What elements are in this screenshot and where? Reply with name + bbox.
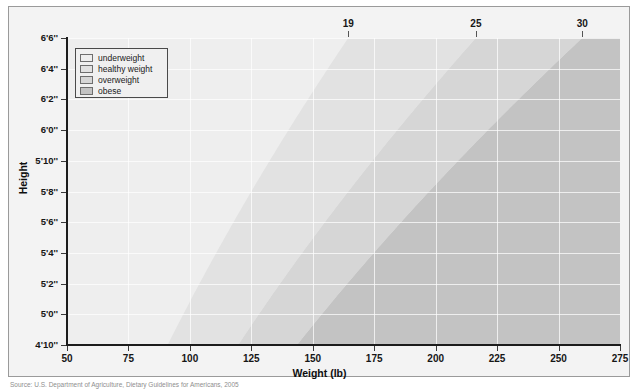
y-tick-mark	[61, 345, 66, 346]
bmi-tick-mark	[582, 31, 583, 37]
x-tick-mark	[559, 346, 560, 351]
x-tick-label: 225	[477, 353, 517, 364]
x-tick-label: 200	[416, 353, 456, 364]
y-tick-label: 6'2''	[41, 93, 58, 104]
x-tick-label: 75	[108, 353, 148, 364]
bmi-chart-figure: Body Mass Index (BMI) 4'10''5'0''5'2''5'…	[0, 0, 639, 392]
legend-item-label: healthy weight	[98, 64, 152, 74]
y-tick-label: 5'8''	[41, 186, 58, 197]
bmi-tick-mark	[476, 31, 477, 37]
y-axis-line	[66, 37, 68, 346]
x-tick-mark	[313, 346, 314, 351]
x-axis-title: Weight (lb)	[0, 367, 639, 379]
x-tick-label: 125	[231, 353, 271, 364]
x-tick-mark	[374, 346, 375, 351]
legend-item-obese: obese	[80, 85, 163, 96]
y-tick-label: 6'6''	[41, 32, 58, 43]
legend-item-label: obese	[98, 86, 121, 96]
x-tick-label: 150	[293, 353, 333, 364]
y-tick-label: 5'0''	[41, 308, 58, 319]
bmi-tick-mark	[348, 31, 349, 37]
legend-item-overweight: overweight	[80, 74, 163, 85]
bmi-label: 30	[562, 18, 602, 29]
x-tick-label: 100	[170, 353, 210, 364]
x-tick-label: 175	[354, 353, 394, 364]
legend-item-underweight: underweight	[80, 52, 163, 63]
y-tick-mark	[61, 314, 66, 315]
y-tick-label: 5'4''	[41, 247, 58, 258]
x-tick-mark	[497, 346, 498, 351]
x-tick-mark	[67, 346, 68, 351]
legend-swatch-icon	[80, 76, 93, 84]
legend-item-healthy-weight: healthy weight	[80, 63, 163, 74]
y-tick-label: 5'10''	[35, 155, 58, 166]
x-tick-mark	[620, 346, 621, 351]
y-tick-label: 4'10''	[35, 339, 58, 350]
y-tick-mark	[61, 161, 66, 162]
y-tick-mark	[61, 222, 66, 223]
x-tick-label: 275	[600, 353, 639, 364]
legend-box: underweighthealthy weightoverweightobese	[75, 48, 168, 98]
y-tick-mark	[61, 38, 66, 39]
x-tick-mark	[251, 346, 252, 351]
y-tick-label: 6'0''	[41, 124, 58, 135]
x-tick-mark	[128, 346, 129, 351]
y-tick-mark	[61, 284, 66, 285]
x-tick-mark	[436, 346, 437, 351]
x-tick-label: 50	[47, 353, 87, 364]
y-tick-mark	[61, 253, 66, 254]
legend-swatch-icon	[80, 65, 93, 73]
y-tick-label: 5'2''	[41, 278, 58, 289]
bmi-label: 19	[328, 18, 368, 29]
legend-item-label: overweight	[98, 75, 139, 85]
y-tick-mark	[61, 192, 66, 193]
legend-swatch-icon	[80, 87, 93, 95]
y-tick-label: 5'6''	[41, 216, 58, 227]
legend-item-label: underweight	[98, 53, 144, 63]
y-tick-mark	[61, 99, 66, 100]
y-tick-mark	[61, 130, 66, 131]
y-tick-mark	[61, 69, 66, 70]
source-note: Source: U.S. Department of Agriculture, …	[10, 381, 239, 388]
x-tick-mark	[190, 346, 191, 351]
x-axis-line	[66, 344, 621, 346]
y-tick-label: 6'4''	[41, 63, 58, 74]
y-axis-title: Height	[17, 148, 29, 208]
x-tick-label: 250	[539, 353, 579, 364]
legend-swatch-icon	[80, 54, 93, 62]
bmi-label: 25	[456, 18, 496, 29]
